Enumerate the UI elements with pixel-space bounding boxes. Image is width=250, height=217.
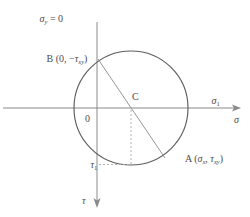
point-a-close: ) [220,153,223,165]
condition-equals-zero: = 0 [47,13,63,24]
tau-one-label: τ1 [73,159,110,172]
origin-label: 0 [85,113,90,124]
point-b-open: (0, − [53,53,75,65]
sigma-one-sub: 1 [216,100,219,107]
point-b-close: ) [84,53,87,65]
mohr-circle-figure: σy = 0 B (0, −τxy) A (σx, τxy) C 0 σ1 τ1… [0,0,250,217]
tau-axis-label: τ [82,195,86,206]
sigma-axis-label: σ [234,114,240,125]
sigma-one-label: σ1 [194,95,232,108]
point-b-label: B (0, −τxy) [29,53,100,65]
tau-one-sub: 1 [94,164,97,171]
condition-label: σy = 0 [22,13,76,25]
center-label: C [132,91,139,102]
point-a-label: A (σx, τxy) [168,153,236,165]
